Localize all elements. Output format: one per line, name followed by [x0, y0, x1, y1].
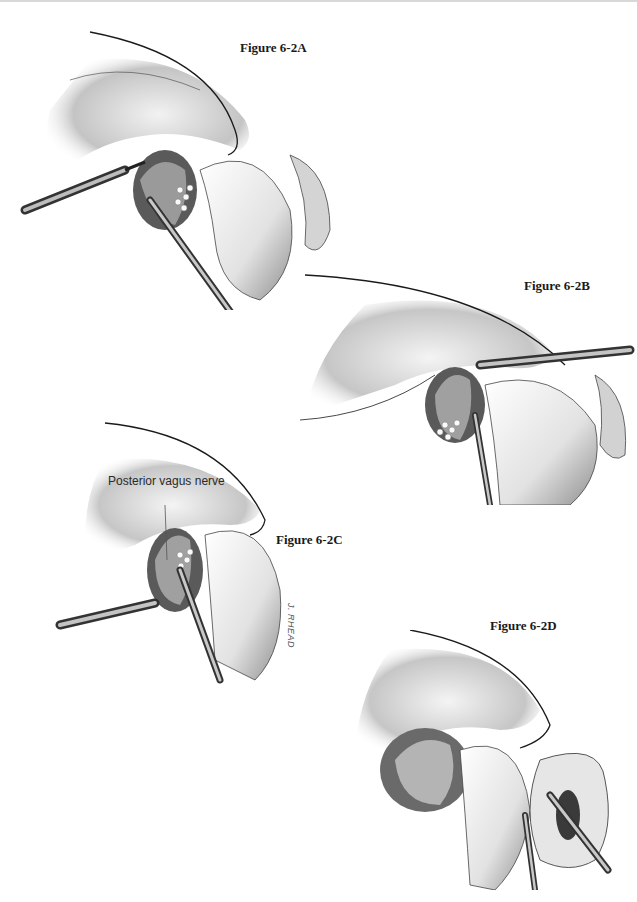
laparoscopic-hiatus-drawing-b [295, 265, 637, 505]
laparoscopic-hiatus-drawing-a [10, 30, 340, 310]
artist-signature: J. RHEAD [286, 603, 296, 648]
posterior-vagus-nerve-label: Posterior vagus nerve [108, 474, 225, 488]
laparoscopic-hiatus-drawing-c [55, 420, 290, 690]
laparoscopic-hiatus-drawing-d [350, 630, 637, 890]
figure-6-2a-caption: Figure 6-2A [240, 40, 307, 56]
figure-6-2b-caption: Figure 6-2B [524, 278, 590, 294]
figure-6-2d-illustration [350, 630, 637, 890]
figure-6-2b-illustration [295, 265, 637, 505]
figure-6-2a-illustration [10, 30, 340, 310]
figure-6-2c-illustration [55, 420, 290, 690]
figure-6-2c-caption: Figure 6-2C [276, 532, 343, 548]
figure-6-2d-caption: Figure 6-2D [490, 618, 557, 634]
page-top-border [0, 0, 637, 2]
